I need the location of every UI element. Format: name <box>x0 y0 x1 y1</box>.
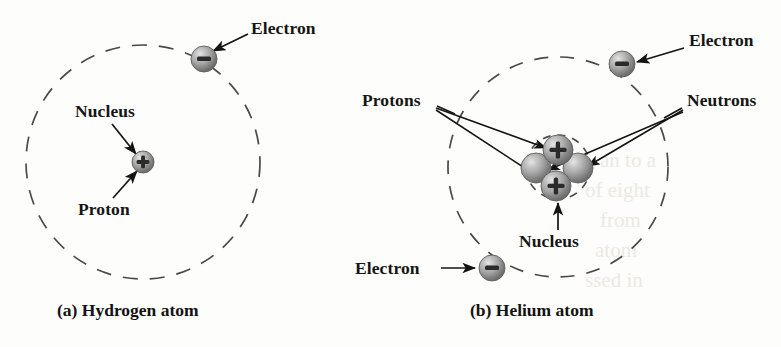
hydrogen-proton-sphere <box>132 151 154 173</box>
label-electron-helium-bottom: Electron <box>355 258 420 279</box>
label-electron-hydrogen: Electron <box>251 18 316 39</box>
nucleus-leader-hydrogen <box>112 124 136 154</box>
label-electron-helium-top: Electron <box>689 30 754 51</box>
figure-canvas: an to a of eight from atom ssed in <box>0 0 781 347</box>
protons-leader-upper <box>436 108 546 148</box>
helium-proton-bottom-sphere <box>541 171 571 201</box>
hydrogen-electron-sphere <box>191 46 217 72</box>
helium-proton-top-sphere <box>543 135 573 165</box>
label-proton-hydrogen: Proton <box>78 199 130 220</box>
proton-leader-hydrogen <box>113 171 137 198</box>
caption-hydrogen: (a) Hydrogen atom <box>57 300 199 321</box>
label-protons-helium: Protons <box>362 90 421 111</box>
electron-leader-helium-top <box>637 48 684 62</box>
diagram-vectors <box>0 0 781 347</box>
electron-leader-hydrogen <box>213 34 248 51</box>
label-nucleus-hydrogen: Nucleus <box>75 101 135 122</box>
helium-electron-top-sphere <box>609 51 635 77</box>
label-neutrons-helium: Neutrons <box>687 90 757 111</box>
helium-electron-bottom-sphere <box>479 255 505 281</box>
label-nucleus-helium: Nucleus <box>519 231 579 252</box>
caption-helium: (b) Helium atom <box>470 300 593 321</box>
